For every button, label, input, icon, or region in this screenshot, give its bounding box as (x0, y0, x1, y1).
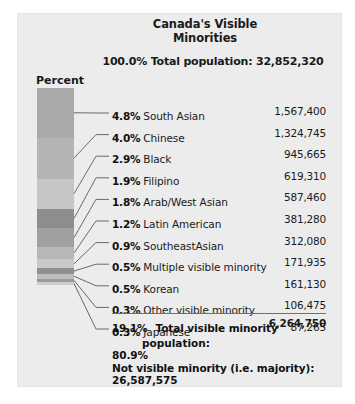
stacked-bar (37, 88, 74, 285)
total-row-label: Total visible minority (156, 322, 278, 334)
row-count: 161,130 (284, 278, 326, 290)
total-row: 19.1% Total visible minority 6,264,750 p… (112, 317, 326, 349)
data-row: 0.5%Multiple visible minority171,935 (112, 256, 326, 272)
row-label: Other visible minority (143, 304, 255, 316)
row-count: 106,475 (284, 299, 326, 311)
footer-count: 26,587,575 (112, 374, 314, 387)
data-row: 1.8%Arab/West Asian587,460 (112, 191, 326, 207)
row-label: Multiple visible minority (143, 261, 266, 273)
data-row: 4.0%Chinese1,324,745 (112, 127, 326, 143)
row-percent: 0.3% (112, 304, 140, 316)
row-percent: 1.2% (112, 218, 140, 230)
bar-segment (37, 209, 74, 229)
total-row-percent: 19.1% (112, 322, 147, 334)
row-count: 312,080 (284, 235, 326, 247)
page-title: Canada's Visible Minorities (110, 17, 300, 45)
bar-segment (37, 88, 74, 138)
data-row: 2.9%Black945,665 (112, 148, 326, 164)
total-population-text: Total population: 32,852,320 (151, 55, 324, 68)
row-count: 619,310 (284, 170, 326, 182)
percent-axis-label: Percent (36, 74, 84, 87)
row-label: Arab/West Asian (143, 196, 227, 208)
row-count: 1,324,745 (274, 127, 326, 139)
row-count: 171,935 (284, 256, 326, 268)
row-percent: 2.9% (112, 153, 140, 165)
row-label: Filipino (143, 175, 179, 187)
total-row-count: 6,264,750 (269, 317, 326, 329)
row-count: 945,665 (284, 148, 326, 160)
row-percent: 0.5% (112, 261, 140, 273)
total-population-percent: 100.0% (102, 55, 147, 68)
bar-segment (37, 228, 74, 247)
data-row: 0.5%Korean161,130 (112, 278, 326, 294)
row-label: SoutheastAsian (143, 240, 223, 252)
row-count: 1,567,400 (274, 105, 326, 117)
total-divider (112, 313, 326, 314)
not-visible-minority-note: 80.9% Not visible minority (i.e. majorit… (112, 349, 314, 387)
bar-segment (37, 282, 74, 285)
row-percent: 4.0% (112, 132, 140, 144)
infographic-canvas: Canada's Visible Minorities 100.0% Total… (0, 0, 355, 404)
row-label: Chinese (143, 132, 184, 144)
data-row: 1.9%Filipino619,310 (112, 170, 326, 186)
footer-percent: 80.9% (112, 349, 314, 362)
bar-segment (37, 138, 74, 179)
total-row-label-2: population: (142, 337, 326, 349)
row-percent: 1.8% (112, 196, 140, 208)
row-label: South Asian (143, 110, 204, 122)
data-row: 0.9%SoutheastAsian312,080 (112, 235, 326, 251)
row-label: Black (143, 153, 171, 165)
row-percent: 0.5% (112, 283, 140, 295)
row-count: 587,460 (284, 191, 326, 203)
total-population-summary: 100.0% Total population: 32,852,320 (98, 55, 328, 68)
title-line-2: Minorities (110, 31, 300, 45)
row-percent: 4.8% (112, 110, 140, 122)
data-row: 4.8%South Asian1,567,400 (112, 105, 326, 121)
row-percent: 1.9% (112, 175, 140, 187)
data-row: 1.2%Latin American381,280 (112, 213, 326, 229)
row-count: 381,280 (284, 213, 326, 225)
bar-segment (37, 259, 74, 268)
bar-segment (37, 179, 74, 209)
footer-label: Not visible minority (i.e. majority): (112, 362, 314, 375)
row-percent: 0.9% (112, 240, 140, 252)
title-line-1: Canada's Visible (110, 17, 300, 31)
row-label: Korean (143, 283, 179, 295)
bar-segment (37, 247, 74, 259)
row-label: Latin American (143, 218, 221, 230)
